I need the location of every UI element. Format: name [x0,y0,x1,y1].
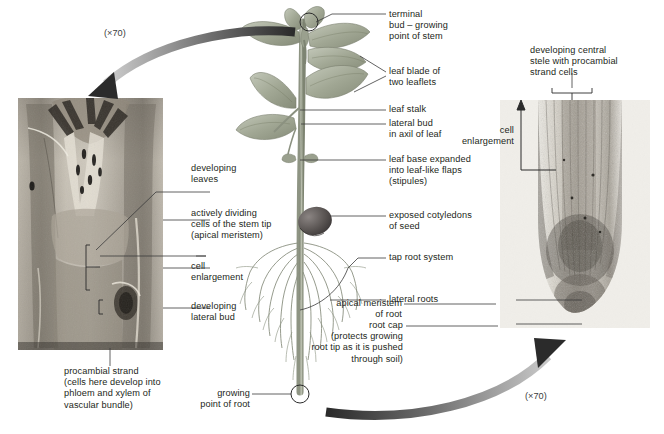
label-cell-enlargement-left: cell enlargement [191,261,243,283]
stem-tip-micrograph [18,98,163,350]
label-growing-point-of-root: growing point of root [160,388,250,410]
mid-right-leaflet [306,65,368,98]
root-tip-micrograph [500,100,650,328]
label-terminal-bud: terminal bud – growing point of stem [389,9,448,43]
figure-root: (×70) (×70) terminal bud – growing point… [0,0,664,434]
label-developing-lateral-bud: developing lateral bud [191,301,236,323]
root-tip-micrograph-image [500,100,650,328]
upper-right-leaflets [304,23,370,72]
label-procambial-strand: procambial strand (cells here develop in… [64,366,161,411]
label-leaf-base: leaf base expanded into leaf-like flaps … [389,154,471,188]
label-leaf-stalk: leaf stalk [389,104,426,115]
circle-marker-stem [300,13,318,31]
label-apical-meristem-root: apical meristem of root [310,298,402,320]
magnification-top: (×70) [104,28,126,38]
circle-marker-root [291,385,309,403]
cotyledon-seed [295,203,335,238]
label-apical-meristem-stem: actively dividing cells of the stem tip … [191,208,272,242]
bracket-stele-right [552,88,592,100]
label-cotyledons: exposed cotyledons of seed [389,210,472,232]
terminal-bud-group [285,7,325,48]
label-developing-leaves: developing leaves [191,163,236,185]
label-root-cap: root cap (protects growing root tip as i… [258,320,403,365]
label-tap-root-system: tap root system [389,252,453,263]
label-lateral-bud: lateral bud in axil of leaf [389,118,441,140]
label-developing-stele: developing central stele with procambial… [530,45,618,79]
curved-arrow-top [88,31,295,99]
mid-left-leaflets [236,72,299,154]
label-leaf-blade: leaf blade of two leaflets [389,66,440,88]
magnification-bottom: (×70) [525,391,547,401]
stipules [282,154,318,163]
label-cell-enlargement-right: cell enlargement [452,125,514,147]
upper-left-leaflet [242,22,300,46]
stem-tip-micrograph-image [18,98,163,350]
